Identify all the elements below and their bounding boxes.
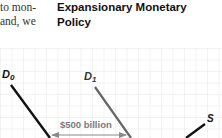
shift-amount-label: $500 billion xyxy=(60,119,112,130)
heading-line: Policy xyxy=(57,15,187,30)
monetary-policy-chart: D1 D0 S $500 billion xyxy=(0,46,222,138)
body-text-line: and, we xyxy=(0,14,36,28)
figure-heading: Expansionary Monetary Policy xyxy=(57,0,187,30)
body-text-line: to mon- xyxy=(0,0,36,14)
heading-line: Expansionary Monetary xyxy=(57,0,187,15)
s-label: S xyxy=(207,113,214,124)
body-text: to mon- and, we xyxy=(0,0,36,28)
